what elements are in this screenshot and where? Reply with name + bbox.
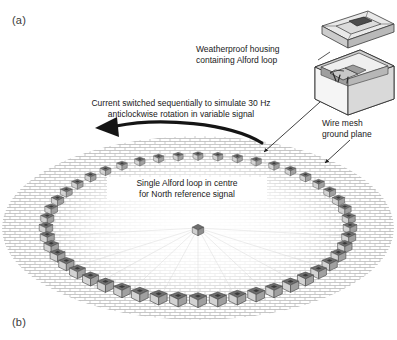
callout-current-switching: Current switched sequentially to simulat… (72, 98, 290, 119)
panel-label-b: (b) (12, 316, 26, 328)
housing-lid-illustration (322, 11, 394, 48)
callout-wire-mesh-ground-plane: Wire mesh ground plane (322, 118, 396, 139)
leader-line-mesh (325, 140, 350, 163)
leader-line-housing-label (318, 52, 330, 60)
housing-box-illustration (315, 50, 394, 115)
callout-centre-alford-loop: Single Alford loop in centre for North r… (107, 177, 267, 200)
panel-label-a: (a) (12, 14, 26, 26)
callout-weatherproof-housing: Weatherproof housing containing Alford l… (196, 44, 318, 65)
